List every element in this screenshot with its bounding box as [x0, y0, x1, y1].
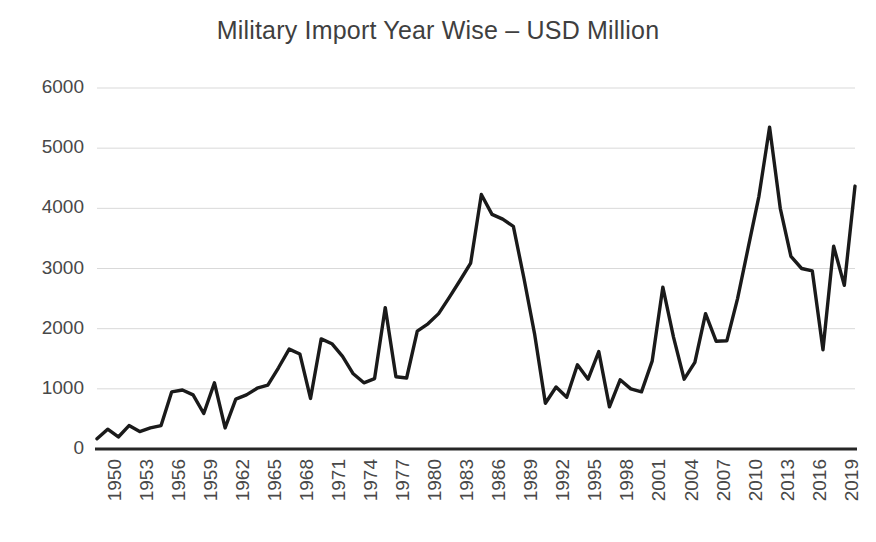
x-axis-tick-label: 1995 — [584, 459, 606, 501]
x-axis-tick-label: 1974 — [360, 459, 382, 501]
x-axis-tick-label: 1992 — [552, 459, 574, 501]
x-axis-tick-label: 2001 — [648, 459, 670, 501]
x-axis-tick-label: 1962 — [232, 459, 254, 501]
y-axis-tick-label: 5000 — [10, 136, 84, 158]
x-axis-tick-label: 1959 — [200, 459, 222, 501]
x-axis-tick-label: 1950 — [104, 459, 126, 501]
x-axis-tick-label: 2019 — [841, 459, 863, 501]
y-axis-tick-label: 2000 — [10, 317, 84, 339]
y-axis-tick-label: 4000 — [10, 196, 84, 218]
y-axis-tick-label: 6000 — [10, 76, 84, 98]
data-series-line — [97, 127, 855, 439]
x-axis-tick-label: 1956 — [168, 459, 190, 501]
x-axis-tick-label: 1998 — [616, 459, 638, 501]
chart-container: Military Import Year Wise – USD Million … — [0, 0, 876, 542]
x-axis-tick-label: 1989 — [520, 459, 542, 501]
x-axis-tick-label: 1965 — [264, 459, 286, 501]
x-axis-tick-label: 2004 — [681, 459, 703, 501]
x-axis-tick-label: 1983 — [456, 459, 478, 501]
x-axis-tick-label: 1980 — [424, 459, 446, 501]
y-axis-tick-label: 1000 — [10, 377, 84, 399]
x-axis-tick-label: 2007 — [713, 459, 735, 501]
x-axis-tick-label: 1977 — [392, 459, 414, 501]
x-axis-tick-label: 2013 — [777, 459, 799, 501]
data-series-group — [97, 127, 855, 439]
x-axis-tick-label: 1968 — [296, 459, 318, 501]
y-axis-tick-label: 0 — [10, 437, 84, 459]
x-axis-tick-label: 1953 — [136, 459, 158, 501]
x-axis-tick-label: 2016 — [809, 459, 831, 501]
x-axis-tick-label: 1971 — [328, 459, 350, 501]
y-axis-tick-label: 3000 — [10, 257, 84, 279]
x-axis-tick-label: 2010 — [745, 459, 767, 501]
x-axis-tick-label: 1986 — [488, 459, 510, 501]
